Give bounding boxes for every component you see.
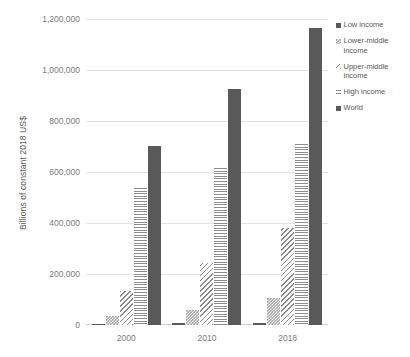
legend-item-1[interactable]: Lower-middle income (336, 36, 408, 55)
bar-2000-series-3[interactable] (134, 188, 147, 325)
plot-area (86, 19, 328, 325)
chart-legend: Low incomeLower-middle incomeUpper-middl… (336, 20, 408, 119)
legend-item-label: World (344, 103, 363, 113)
y-axis-tick-label: 200,000 (10, 269, 80, 279)
bar-2018-series-4[interactable] (309, 28, 322, 325)
bar-2010-series-2[interactable] (200, 263, 213, 325)
bar-2000-series-2[interactable] (120, 291, 133, 325)
legend-item-label: Low income (344, 20, 384, 30)
bar-2018-series-1[interactable] (267, 298, 280, 325)
legend-item-2[interactable]: Upper-middle income (336, 62, 408, 81)
bar-2010-series-0[interactable] (172, 323, 185, 325)
legend-swatch-icon (336, 90, 341, 95)
bar-2000-series-1[interactable] (106, 316, 119, 325)
y-axis-tick-label: 1,200,000 (10, 14, 80, 24)
bar-group-2018 (247, 19, 328, 325)
legend-item-0[interactable]: Low income (336, 20, 408, 30)
bar-2018-series-0[interactable] (253, 323, 266, 325)
bar-2000-series-0[interactable] (92, 324, 105, 325)
bar-group-2010 (167, 19, 248, 325)
y-axis-tick-label: 1,000,000 (10, 65, 80, 75)
legend-item-label: High income (344, 87, 386, 97)
legend-item-3[interactable]: High income (336, 87, 408, 97)
bar-group-2000 (86, 19, 167, 325)
legend-swatch-icon (336, 106, 341, 111)
bar-2018-series-3[interactable] (295, 144, 308, 325)
bar-2010-series-1[interactable] (186, 310, 199, 325)
bar-2010-series-3[interactable] (214, 168, 227, 325)
legend-item-label: Upper-middle income (344, 62, 409, 81)
legend-item-label: Lower-middle income (344, 36, 409, 55)
y-axis-tick-label: 0 (10, 320, 80, 330)
bar-2010-series-4[interactable] (228, 89, 241, 325)
bar-2000-series-4[interactable] (148, 146, 161, 325)
y-axis-tick-label: 800,000 (10, 116, 80, 126)
legend-swatch-icon (336, 64, 341, 69)
x-axis-tick-label-2000: 2000 (86, 333, 166, 343)
bar-2018-series-2[interactable] (281, 228, 294, 325)
legend-swatch-icon (336, 39, 341, 44)
legend-item-4[interactable]: World (336, 103, 408, 113)
x-axis-tick-label-2010: 2010 (167, 333, 247, 343)
y-axis-tick-label: 400,000 (10, 218, 80, 228)
bar-chart: Billions of constant 2018 US$ 0200,00040… (0, 0, 410, 357)
y-axis-tick-label: 600,000 (10, 167, 80, 177)
x-axis-tick-label-2018: 2018 (248, 333, 328, 343)
legend-swatch-icon (336, 23, 341, 28)
